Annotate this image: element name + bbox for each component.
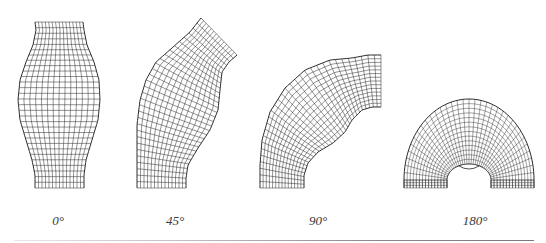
mesh-180-degree xyxy=(404,99,534,188)
label-180-degree: 180° xyxy=(463,213,488,229)
mesh-0-degree xyxy=(18,22,100,188)
mesh-90-degree xyxy=(260,55,381,188)
mesh-45-degree xyxy=(137,18,237,188)
bottom-rule-divider xyxy=(14,240,534,241)
label-45-degree: 45° xyxy=(166,213,184,229)
tube-bending-mesh-figure xyxy=(0,0,546,243)
label-0-degree: 0° xyxy=(52,213,64,229)
label-90-degree: 90° xyxy=(309,213,327,229)
